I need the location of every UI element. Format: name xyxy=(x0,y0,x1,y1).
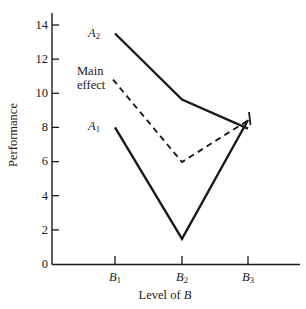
main-effect-label-line2: effect xyxy=(77,78,105,92)
y-axis-title: Performance xyxy=(6,103,21,167)
x-axis-title-var: B xyxy=(184,288,192,302)
x-tick-marks xyxy=(115,256,248,265)
convergence-tick-b3 xyxy=(249,112,251,125)
y-tick-label-0: 0 xyxy=(22,258,48,271)
series-line-main-effect xyxy=(113,80,247,162)
series-label-a1: A1 xyxy=(88,120,100,134)
x-tick-label-b2: B2 xyxy=(162,271,202,285)
series-label-main-effect: Main effect xyxy=(77,64,105,92)
y-axis-title-wrap: Performance xyxy=(2,60,24,210)
series-line-a2 xyxy=(115,34,248,129)
x-axis-title: Level of B xyxy=(110,289,220,302)
y-tick-label-8: 8 xyxy=(22,121,48,134)
y-tick-label-6: 6 xyxy=(22,155,48,168)
y-tick-label-4: 4 xyxy=(22,190,48,203)
interaction-plot-figure: 14 12 10 8 6 4 2 0 B1 B2 B3 A2 A1 Main e… xyxy=(0,0,306,309)
series-line-a1 xyxy=(115,120,248,239)
y-tick-label-2: 2 xyxy=(22,224,48,237)
x-axis-title-prefix: Level of xyxy=(139,288,184,302)
y-tick-label-14: 14 xyxy=(22,19,48,32)
x-tick-label-b3: B3 xyxy=(228,271,268,285)
y-tick-label-10: 10 xyxy=(22,87,48,100)
main-effect-label-line1: Main xyxy=(77,64,105,78)
x-tick-label-b1: B1 xyxy=(95,271,135,285)
y-tick-marks xyxy=(52,25,59,230)
series-label-a2: A2 xyxy=(88,27,100,41)
y-tick-label-12: 12 xyxy=(22,53,48,66)
